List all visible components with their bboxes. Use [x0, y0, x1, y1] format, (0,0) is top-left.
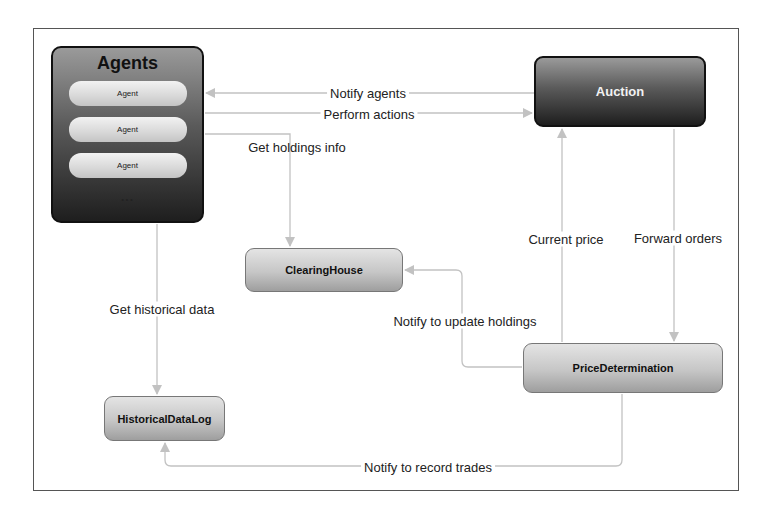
- agents-title: Agents: [97, 52, 158, 74]
- edge-label-current-price: Current price: [525, 232, 606, 247]
- edge-label-get-holdings-info: Get holdings info: [245, 140, 349, 155]
- agent-item[interactable]: Agent: [69, 117, 187, 142]
- historical-data-log-node[interactable]: HistoricalDataLog: [104, 396, 225, 441]
- edge-label-notify-record-trades: Notify to record trades: [361, 460, 495, 475]
- agents-more: ...: [121, 190, 134, 204]
- edge-label-forward-orders: Forward orders: [631, 231, 725, 246]
- edge-label-perform-actions: Perform actions: [320, 107, 417, 122]
- price-determination-node[interactable]: PriceDetermination: [523, 343, 723, 393]
- clearing-house-label: ClearingHouse: [285, 264, 363, 276]
- agent-item[interactable]: Agent: [69, 81, 187, 106]
- clearing-house-node[interactable]: ClearingHouse: [245, 248, 403, 292]
- auction-node[interactable]: Auction: [534, 56, 706, 127]
- auction-label: Auction: [596, 84, 644, 99]
- price-determination-label: PriceDetermination: [573, 362, 674, 374]
- edge-label-notify-update-holdings: Notify to update holdings: [390, 314, 539, 329]
- agents-node[interactable]: Agents Agent Agent Agent ...: [51, 46, 204, 223]
- agent-item[interactable]: Agent: [69, 153, 187, 178]
- edge-label-notify-agents: Notify agents: [327, 86, 409, 101]
- edge-notify-record-trades: [165, 394, 622, 466]
- edge-label-get-historical-data: Get historical data: [107, 302, 218, 317]
- historical-data-log-label: HistoricalDataLog: [117, 413, 211, 425]
